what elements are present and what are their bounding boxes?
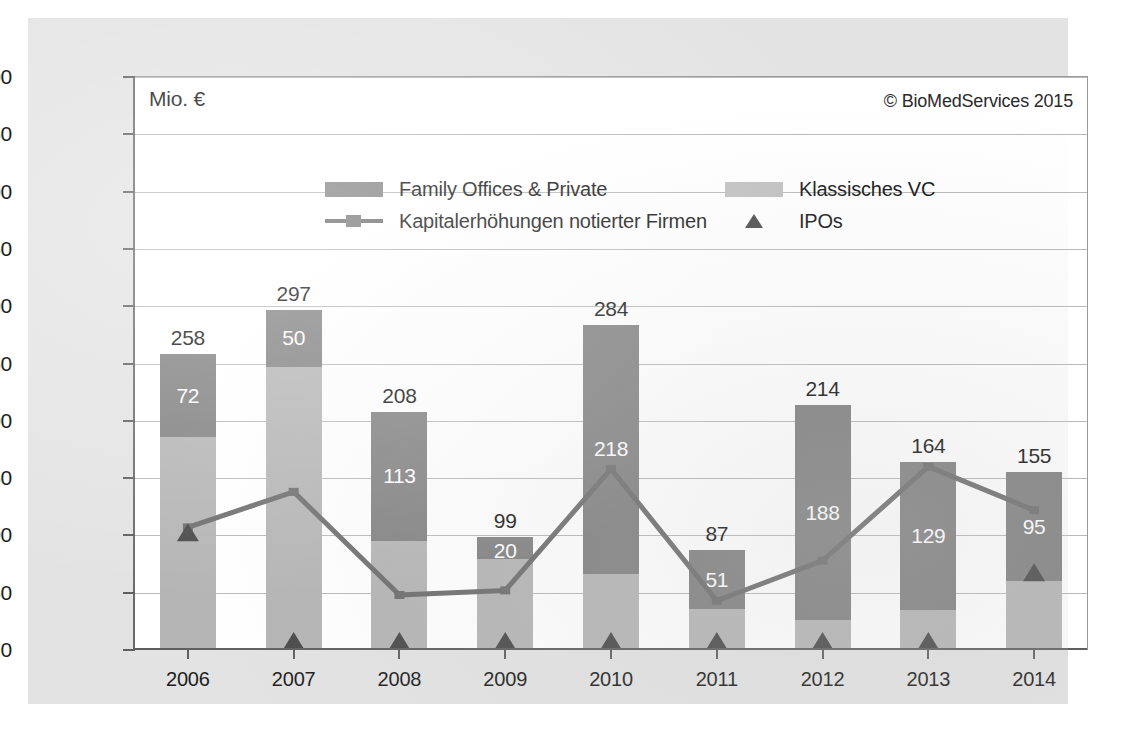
- bar-group[interactable]: 218284: [583, 325, 639, 650]
- y-axis-tick-label: 50: [0, 581, 12, 605]
- page-canvas: Mio. € © BioMedServices 2015 72258502971…: [0, 0, 1121, 730]
- bar-segment-value-label: 218: [583, 437, 639, 461]
- bar-segment-value-label: 50: [266, 326, 322, 350]
- bar-total-label: 164: [911, 434, 945, 458]
- y-axis-tick: [123, 592, 135, 594]
- legend-item-ipos[interactable]: IPOs: [725, 210, 843, 233]
- bar-segment-klassisches-vc[interactable]: [477, 559, 533, 650]
- y-axis-tick: [123, 191, 135, 193]
- x-axis-tick-label: 2014: [1012, 668, 1056, 691]
- chart-legend: Family Offices & Private Klassisches VC …: [325, 173, 1045, 237]
- bar-segment-value-label: 188: [795, 501, 851, 525]
- gridline: [135, 249, 1087, 250]
- bar-group[interactable]: 129164: [900, 462, 956, 650]
- legend-label-klassisches-vc: Klassisches VC: [799, 178, 935, 201]
- bar-segment-value-label: 72: [160, 384, 216, 408]
- bar-total-label: 99: [494, 509, 517, 533]
- bar-segment-value-label: 113: [371, 464, 427, 488]
- x-axis-tick-label: 2009: [483, 668, 527, 691]
- x-axis-tick: [716, 650, 718, 659]
- x-axis-tick-label: 2010: [589, 668, 633, 691]
- y-axis-tick: [123, 248, 135, 250]
- bar-group[interactable]: 72258: [160, 354, 216, 650]
- bar-total-label: 258: [171, 326, 205, 350]
- x-axis-tick-label: 2013: [906, 668, 950, 691]
- x-axis-tick: [1033, 650, 1035, 659]
- bar-segment-family-offices[interactable]: 50: [266, 310, 322, 367]
- legend-swatch-box-icon: [725, 182, 783, 197]
- legend-line-marker-icon: [325, 213, 383, 229]
- legend-label-ipos: IPOs: [799, 210, 843, 233]
- y-axis-tick: [123, 76, 135, 78]
- bar-segment-klassisches-vc[interactable]: [371, 541, 427, 650]
- x-axis-tick: [187, 650, 189, 659]
- y-axis-tick-label: 400: [0, 180, 12, 204]
- bar-segment-klassisches-vc[interactable]: [795, 620, 851, 650]
- legend-label-family-offices: Family Offices & Private: [399, 178, 607, 201]
- bar-segment-klassisches-vc[interactable]: [266, 367, 322, 650]
- y-axis-tick: [123, 649, 135, 651]
- bar-total-label: 284: [594, 297, 628, 321]
- y-axis-tick-label: 450: [0, 122, 12, 146]
- bar-segment-klassisches-vc[interactable]: [900, 610, 956, 650]
- y-axis-tick: [123, 133, 135, 135]
- bar-total-label: 297: [277, 282, 311, 306]
- bar-segment-family-offices[interactable]: 20: [477, 537, 533, 560]
- bar-segment-klassisches-vc[interactable]: [1006, 581, 1062, 650]
- bar-segment-family-offices[interactable]: 188: [795, 405, 851, 620]
- x-axis-tick: [293, 650, 295, 659]
- legend-item-family-offices[interactable]: Family Offices & Private: [325, 178, 725, 201]
- legend-row-2: Kapitalerhöhungen notierter Firmen IPOs: [325, 205, 1045, 237]
- bar-segment-klassisches-vc[interactable]: [583, 574, 639, 650]
- bar-total-label: 155: [1017, 444, 1051, 468]
- x-axis-tick: [822, 650, 824, 659]
- x-axis-tick: [504, 650, 506, 659]
- y-axis-tick: [123, 363, 135, 365]
- x-axis-tick-label: 2011: [696, 668, 738, 691]
- x-axis-tick: [610, 650, 612, 659]
- bar-segment-family-offices[interactable]: 95: [1006, 472, 1062, 581]
- bar-segment-klassisches-vc[interactable]: [160, 437, 216, 650]
- bar-segment-value-label: 51: [689, 568, 745, 592]
- bar-group[interactable]: 113208: [371, 412, 427, 650]
- bar-group[interactable]: 188214: [795, 405, 851, 650]
- bar-group[interactable]: 5187: [689, 550, 745, 650]
- y-axis-tick-label: 300: [0, 294, 12, 318]
- x-axis-tick-label: 2008: [378, 668, 422, 691]
- bar-group[interactable]: 50297: [266, 310, 322, 650]
- plot-area: 7225850297113208209921828451871882141291…: [135, 77, 1087, 650]
- bar-segment-value-label: 20: [477, 539, 533, 563]
- bar-segment-family-offices[interactable]: 72: [160, 354, 216, 437]
- x-axis-tick: [927, 650, 929, 659]
- bar-segment-value-label: 95: [1006, 515, 1062, 539]
- bar-segment-family-offices[interactable]: 51: [689, 550, 745, 608]
- y-axis-tick-label: 500: [0, 65, 12, 89]
- bar-segment-family-offices[interactable]: 113: [371, 412, 427, 541]
- y-axis-tick-label: 250: [0, 352, 12, 376]
- y-axis-tick: [123, 305, 135, 307]
- legend-item-klassisches-vc[interactable]: Klassisches VC: [725, 178, 935, 201]
- bar-group[interactable]: 95155: [1006, 472, 1062, 650]
- bar-segment-klassisches-vc[interactable]: [689, 609, 745, 650]
- chart-figure: Mio. € © BioMedServices 2015 72258502971…: [133, 76, 1088, 650]
- x-axis-tick-label: 2006: [166, 668, 210, 691]
- gridline: [135, 77, 1087, 78]
- bar-segment-value-label: 129: [900, 524, 956, 548]
- y-axis-tick-label: 100: [0, 523, 12, 547]
- bar-total-label: 87: [705, 522, 728, 546]
- x-axis-tick-label: 2007: [272, 668, 316, 691]
- legend-swatch-box-icon: [325, 182, 383, 197]
- bar-group[interactable]: 2099: [477, 537, 533, 650]
- bar-total-label: 208: [382, 384, 416, 408]
- legend-label-kapitalerhoehungen: Kapitalerhöhungen notierter Firmen: [399, 210, 707, 233]
- y-axis-tick-label: 0: [0, 638, 12, 662]
- legend-item-kapitalerhoehungen[interactable]: Kapitalerhöhungen notierter Firmen: [325, 210, 725, 233]
- x-axis-tick: [398, 650, 400, 659]
- y-axis-tick: [123, 420, 135, 422]
- bar-segment-family-offices[interactable]: 218: [583, 325, 639, 575]
- y-axis-tick-label: 150: [0, 466, 12, 490]
- legend-triangle-marker-icon: [725, 214, 783, 228]
- y-axis-tick: [123, 477, 135, 479]
- bar-segment-family-offices[interactable]: 129: [900, 462, 956, 610]
- y-axis-tick: [123, 534, 135, 536]
